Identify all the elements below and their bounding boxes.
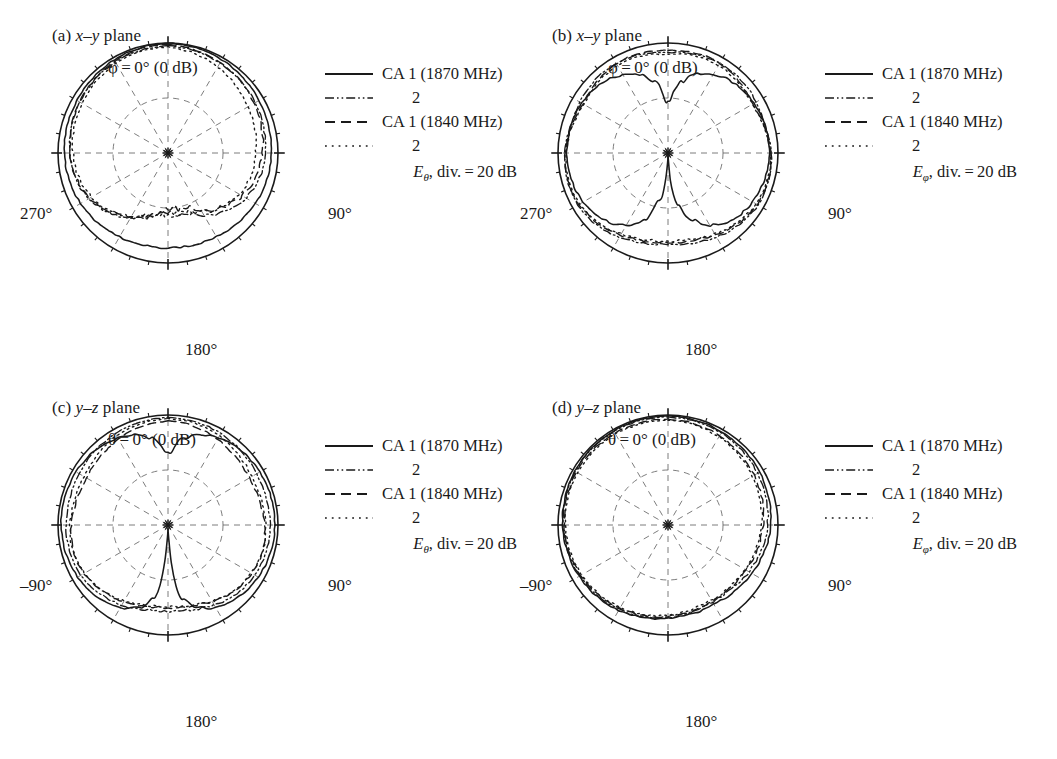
legend-key-dash-dot-dot-icon [323,460,375,480]
legend-label: CA 1 (1840 MHz) [882,112,1003,132]
legend-item: CA 1 (1840 MHz) [323,482,523,506]
panel-b-bottom-angle-label: 180° [685,340,717,360]
legend-key-dashed-icon [323,484,375,504]
legend-key-dash-dot-dot-icon [823,88,875,108]
panel-d-scale-note: Eφ, div. = 20 dB [823,534,1023,555]
legend-item: CA 1 (1840 MHz) [323,110,523,134]
scale-note-text: , div. = 20 dB [929,534,1017,553]
legend-item: 2 [323,86,523,110]
panel-b-legend: CA 1 (1870 MHz) 2 CA 1 (1840 MHz) 2 Eφ, … [823,62,1023,183]
panel-b-top-angle-label: φ = 0° (0 dB) [608,58,698,78]
legend-item: CA 1 (1870 MHz) [323,434,523,458]
legend-item: CA 1 (1870 MHz) [823,434,1023,458]
legend-key-solid-icon [823,64,875,84]
legend-item: CA 1 (1870 MHz) [823,62,1023,86]
legend-item: CA 1 (1840 MHz) [823,482,1023,506]
panel-c-bottom-angle-label: 180° [185,712,217,732]
legend-key-solid-icon [323,436,375,456]
field-symbol: E [413,162,423,181]
panel-a-top-angle-label: φ = 0° (0 dB) [108,58,198,78]
legend-key-dashed-icon [823,112,875,132]
field-symbol: E [413,534,423,553]
panel-d-top-angle-label: θ = 0° (0 dB) [608,430,696,450]
panel-b: (b) x–y plane φ = 0° (0 dB) 270° 90° 180… [520,18,1020,398]
panel-c-top-angle-label: θ = 0° (0 dB) [108,430,196,450]
legend-label: 2 [882,136,920,156]
panel-c-scale-note: Eθ, div. = 20 dB [323,534,523,555]
legend-label: CA 1 (1870 MHz) [882,64,1003,84]
legend-label: CA 1 (1840 MHz) [382,112,503,132]
legend-item: 2 [323,458,523,482]
legend-key-dotted-icon [823,508,875,528]
legend-key-solid-icon [823,436,875,456]
legend-item: 2 [823,86,1023,110]
legend-item: 2 [823,134,1023,158]
panel-d-left-angle-label: –90° [520,576,552,596]
legend-label: CA 1 (1870 MHz) [382,64,503,84]
legend-label: CA 1 (1840 MHz) [882,484,1003,504]
legend-item: 2 [823,506,1023,530]
panel-a: (a) x–y plane φ = 0° (0 dB) 270° 90° 180… [20,18,520,398]
legend-item: 2 [823,458,1023,482]
legend-key-dashed-icon [823,484,875,504]
legend-key-dashed-icon [323,112,375,132]
legend-label: 2 [882,508,920,528]
legend-item: CA 1 (1870 MHz) [323,62,523,86]
legend-key-dash-dot-dot-icon [323,88,375,108]
legend-label: 2 [382,508,420,528]
panel-b-scale-note: Eφ, div. = 20 dB [823,162,1023,183]
scale-note-text: , div. = 20 dB [429,162,517,181]
legend-label: CA 1 (1870 MHz) [882,436,1003,456]
legend-item: CA 1 (1840 MHz) [823,110,1023,134]
legend-label: 2 [882,460,920,480]
panel-a-right-angle-label: 90° [328,204,352,224]
panel-a-legend: CA 1 (1870 MHz) 2 CA 1 (1840 MHz) 2 Eθ, … [323,62,523,183]
panel-c-legend: CA 1 (1870 MHz) 2 CA 1 (1840 MHz) 2 Eθ, … [323,434,523,555]
panel-a-left-angle-label: 270° [20,204,52,224]
panel-d: (d) y–z plane θ = 0° (0 dB) –90° 90° 180… [520,390,1020,759]
legend-key-dotted-icon [323,508,375,528]
legend-label: 2 [382,88,420,108]
panel-c: (c) y–z plane θ = 0° (0 dB) –90° 90° 180… [20,390,520,759]
legend-key-dotted-icon [323,136,375,156]
panel-d-right-angle-label: 90° [828,576,852,596]
panel-c-left-angle-label: –90° [20,576,52,596]
panel-d-legend: CA 1 (1870 MHz) 2 CA 1 (1840 MHz) 2 Eφ, … [823,434,1023,555]
legend-key-dash-dot-dot-icon [823,460,875,480]
legend-item: 2 [323,506,523,530]
panel-b-left-angle-label: 270° [520,204,552,224]
legend-label: 2 [882,88,920,108]
panel-b-right-angle-label: 90° [828,204,852,224]
field-symbol: E [913,534,923,553]
legend-label: 2 [382,136,420,156]
field-symbol: E [913,162,923,181]
panel-d-bottom-angle-label: 180° [685,712,717,732]
legend-item: 2 [323,134,523,158]
scale-note-text: , div. = 20 dB [929,162,1017,181]
panel-c-right-angle-label: 90° [328,576,352,596]
legend-label: CA 1 (1870 MHz) [382,436,503,456]
legend-key-dotted-icon [823,136,875,156]
panel-a-bottom-angle-label: 180° [185,340,217,360]
panel-a-scale-note: Eθ, div. = 20 dB [323,162,523,183]
legend-label: CA 1 (1840 MHz) [382,484,503,504]
legend-key-solid-icon [323,64,375,84]
scale-note-text: , div. = 20 dB [429,534,517,553]
legend-label: 2 [382,460,420,480]
